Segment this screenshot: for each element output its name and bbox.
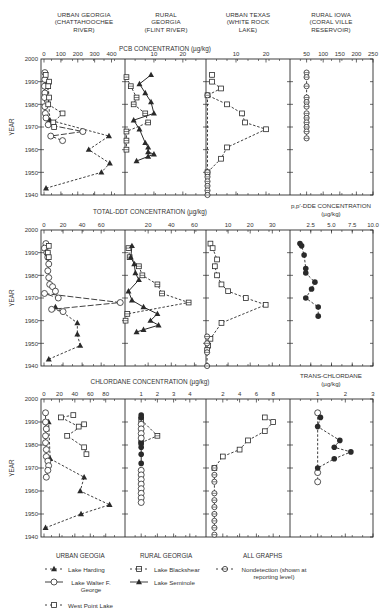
- square-marker-icon: [52, 125, 57, 130]
- x-tick-label: 40: [72, 391, 79, 397]
- circle-marker-icon: [315, 479, 321, 485]
- square-marker-icon: [51, 120, 56, 125]
- circle-marker-icon: [43, 426, 49, 432]
- circle-marker-icon: [48, 133, 54, 139]
- x-tick-label: 3: [172, 391, 176, 397]
- x-tick-label: 60: [191, 222, 198, 228]
- legend-label: Lake Seminole: [154, 579, 195, 586]
- x-tick-label: 20: [60, 222, 67, 228]
- legend-label: Nondetection (shown at reporting level): [241, 566, 306, 580]
- circle-marker-icon: [43, 440, 49, 446]
- y-tick-label: 1970: [25, 465, 39, 471]
- square-marker-icon: [210, 79, 215, 84]
- circle-marker-icon: [43, 433, 49, 439]
- x-tick-label: 1: [140, 391, 144, 397]
- panel-rural-georgia: 204060: [123, 222, 198, 366]
- circle-marker-icon: [45, 467, 51, 473]
- square-marker-icon: [46, 255, 51, 260]
- y-tick-label: 2000: [25, 396, 39, 402]
- square-marker-icon: [219, 86, 224, 91]
- circle-marker-icon: [45, 122, 51, 128]
- triangle-marker-icon: [136, 81, 142, 86]
- filled-circle-marker-icon: [301, 252, 307, 258]
- square-marker-icon: [262, 429, 267, 434]
- y-tick-label: 1940: [25, 192, 39, 198]
- triangle-marker-icon: [77, 488, 83, 493]
- circle-marker-icon: [55, 295, 61, 301]
- x-tick-label: 50: [303, 51, 310, 57]
- square-marker-icon: [246, 438, 251, 443]
- legend-label: Lake Walter F. George: [71, 579, 110, 593]
- series-lake-walter-f-george: [43, 410, 52, 480]
- panel-rural-iowa-trans-chlordane-: 123: [300, 391, 375, 537]
- series-lake-harding: [43, 419, 113, 530]
- x-tick-label: 10: [225, 222, 232, 228]
- triangle-marker-icon: [151, 110, 157, 115]
- series-west-point-lake: [45, 243, 51, 259]
- x-tick-label: 3: [371, 391, 375, 397]
- series-lake-blackshear: [124, 75, 150, 152]
- square-marker-icon: [47, 95, 52, 100]
- circle-marker-icon: [43, 419, 49, 425]
- triangle-marker-icon: [129, 297, 135, 302]
- filled-circle-marker-icon: [331, 445, 337, 451]
- square-marker-icon: [82, 422, 87, 427]
- x-tick-label: 20: [180, 51, 187, 57]
- x-tick-label: 8: [272, 391, 276, 397]
- legend-item-west-point-lake: West Point Lake: [68, 602, 113, 609]
- filled-circle-marker-icon: [299, 243, 305, 249]
- panel-urban-texas: 1020: [205, 51, 280, 198]
- square-marker-icon: [208, 241, 213, 246]
- circle-marker-icon: [138, 500, 144, 506]
- series-west-point-lake: [59, 413, 89, 457]
- circle-marker-icon: [43, 447, 49, 453]
- triangle-marker-icon: [86, 146, 92, 151]
- circle-marker-icon: [43, 410, 49, 416]
- circle-marker-icon: [60, 309, 66, 315]
- x-tick-label: 0: [42, 222, 46, 228]
- triangle-marker-icon: [136, 579, 142, 584]
- filled-circle-marker-icon: [138, 461, 144, 467]
- x-tick-label: 7.5: [348, 222, 357, 228]
- square-marker-icon: [263, 302, 268, 307]
- square-marker-icon: [59, 415, 64, 420]
- x-tick-label: 20: [56, 391, 63, 397]
- row-title: CHLORDANE CONCENTRATION (µg/kg): [91, 378, 210, 386]
- y-tick-label: 1970: [25, 295, 39, 301]
- triangle-marker-icon: [148, 72, 154, 77]
- square-marker-icon: [84, 452, 89, 457]
- x-tick-label: 40: [79, 222, 86, 228]
- filled-circle-marker-icon: [303, 270, 309, 276]
- circle-marker-icon: [46, 275, 52, 281]
- x-tick-label: 0: [42, 51, 46, 57]
- square-marker-icon: [76, 424, 81, 429]
- series-lake-walter-f-george: [41, 241, 123, 315]
- legend-title-urban-georgia: URBAN GEOGIA: [56, 552, 105, 559]
- dde-title: p,p'-DDE CONCENTRATION: [291, 202, 371, 209]
- legend-item-lake-seminole: Lake Seminole: [154, 579, 195, 586]
- dde-units: (µg/kg): [321, 210, 340, 217]
- y-tick-label: 1990: [25, 250, 39, 256]
- triangle-marker-icon: [142, 140, 148, 145]
- x-tick-label: 10.0: [367, 222, 379, 228]
- x-tick-label: 20: [247, 222, 254, 228]
- square-marker-icon: [226, 289, 231, 294]
- square-marker-icon: [219, 282, 224, 287]
- series-trans-chlordane: [315, 415, 354, 471]
- circle-marker-icon: [51, 579, 57, 585]
- square-marker-icon: [82, 445, 87, 450]
- pesticide-concentration-chart: PCB CONCENTRATION (µg/kg)194019501960197…: [0, 0, 388, 616]
- square-marker-icon: [240, 111, 245, 116]
- square-marker-icon: [71, 413, 76, 418]
- circle-marker-icon: [45, 268, 51, 274]
- square-marker-icon: [52, 603, 57, 608]
- x-tick-label: 200: [73, 51, 84, 57]
- x-tick-label: 40: [168, 222, 175, 228]
- x-tick-label: 200: [351, 51, 362, 57]
- circle-marker-icon: [80, 129, 86, 135]
- chart-row-0: PCB CONCENTRATION (µg/kg)194019501960197…: [8, 45, 379, 198]
- circle-marker-icon: [46, 261, 52, 267]
- x-tick-label: 20: [145, 222, 152, 228]
- x-tick-label: 30: [269, 222, 276, 228]
- square-marker-icon: [210, 246, 215, 251]
